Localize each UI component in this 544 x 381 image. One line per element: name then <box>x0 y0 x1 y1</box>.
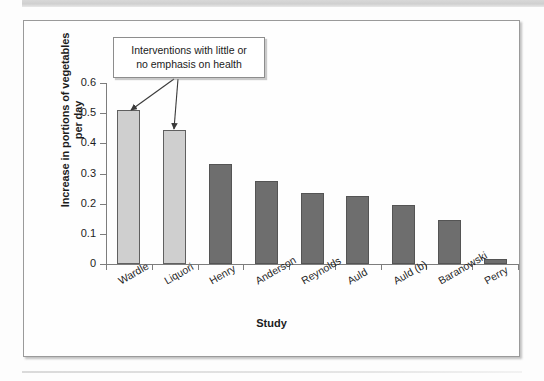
x-tick <box>243 264 244 270</box>
annotation-line2: no emphasis on health <box>136 58 242 70</box>
bar-wardle <box>117 110 140 264</box>
bar-auld-b <box>392 205 415 264</box>
x-tick <box>106 264 107 270</box>
y-tick-label: 0.4 <box>81 136 96 148</box>
x-tick <box>152 264 153 270</box>
annotation-line1: Interventions with little or <box>131 44 247 56</box>
y-tick-label: 0.6 <box>81 76 96 88</box>
y-tick: 0.5 <box>100 113 107 114</box>
bar-baranowski <box>438 220 461 264</box>
bar-reynolds <box>301 193 324 264</box>
bar-auld <box>346 196 369 264</box>
bar-anderson <box>255 181 278 264</box>
x-tick <box>198 264 199 270</box>
figure-frame: Increase in portions of vegetables per d… <box>23 20 520 357</box>
y-tick: 0.6 <box>100 83 107 84</box>
y-tick-label: 0.2 <box>81 197 96 209</box>
y-tick-label: 0.1 <box>81 227 96 239</box>
page-top-band <box>22 0 544 7</box>
x-label-perry: Perry <box>482 263 510 286</box>
y-axis-title-line1: Increase in portions of vegetables <box>59 33 71 208</box>
page-bottom-rule <box>22 371 522 373</box>
y-tick: 0.2 <box>100 204 107 205</box>
x-tick <box>518 264 519 270</box>
x-label-auld: Auld <box>345 265 369 286</box>
y-tick-label: 0.5 <box>81 106 96 118</box>
y-axis-title: Increase in portions of vegetables per d… <box>59 15 85 225</box>
annotation-callout: Interventions with little or no emphasis… <box>113 37 265 78</box>
x-axis-title: Study <box>24 317 519 329</box>
y-tick: 0.3 <box>100 174 107 175</box>
y-tick-label: 0.3 <box>81 167 96 179</box>
x-tick <box>381 264 382 270</box>
y-tick: 0.1 <box>100 234 107 235</box>
y-axis-line <box>106 83 107 266</box>
bar-liquori <box>163 130 186 264</box>
bar-henry <box>209 164 232 264</box>
y-tick-label: 0 <box>90 257 96 269</box>
x-label-henry: Henry <box>207 262 237 286</box>
y-tick: 0.4 <box>100 143 107 144</box>
